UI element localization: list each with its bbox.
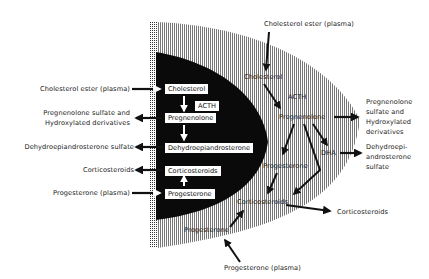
- label-left-cholesterol-ester: Cholesterol ester (plasma): [40, 85, 130, 93]
- box-corticosteroids: Corticosteroids: [165, 166, 221, 176]
- label-right-dhea-3: sulfate: [366, 163, 389, 171]
- label-right-preg-3: Hydroxylated: [366, 118, 411, 126]
- label-left-corticosteroids: Corticosteroids: [83, 166, 134, 174]
- label-left-preg-sulfate-2: Hydroxylated derivatives: [45, 119, 130, 127]
- label-outer-progesterone-lower: Progesterone: [184, 226, 229, 234]
- arrow-prog-plasma-up: [225, 240, 240, 262]
- label-right-preg-2: sulfate and: [366, 108, 404, 116]
- label-right-preg-1: Pregnenolone: [366, 98, 412, 106]
- label-right-dhea-1: Dehydroepi-: [366, 143, 408, 151]
- box-progesterone: Progesterone: [165, 189, 215, 199]
- box-cholesterol: Cholesterol: [165, 84, 208, 94]
- label-outer-progesterone-plasma: Progesterone (plasma): [224, 264, 301, 272]
- label-outer-corticosteroids: Corticosteroids: [237, 198, 288, 206]
- box-dhea: Dehydroepiandrosterone: [165, 143, 253, 153]
- label-outer-cholesterol-ester: Cholesterol ester (plasma): [264, 20, 354, 28]
- label-left-preg-sulfate-1: Pregnenolone sulfate and: [43, 109, 130, 117]
- box-pregnenolone: Pregnenolone: [165, 113, 216, 123]
- adrenal-zone-diagram: [0, 0, 429, 279]
- label-outer-dha: DHA: [321, 149, 336, 157]
- label-right-preg-4: derivatives: [366, 128, 404, 136]
- label-right-dhea-2: androsterone: [366, 153, 411, 161]
- label-outer-progesterone-upper: Progesterone: [263, 162, 308, 170]
- box-acth: ACTH: [195, 101, 219, 111]
- label-outer-cholesterol: Cholesterol: [244, 73, 282, 81]
- label-outer-acth: ACTH: [288, 93, 306, 101]
- label-left-progesterone-plasma: Progesterone (plasma): [53, 189, 130, 197]
- label-right-corticosteroids: Corticosteroids: [337, 208, 388, 216]
- label-left-dhea-sulfate: Dehydroepiandrosterone sulfate: [24, 143, 134, 151]
- label-outer-pregnenolone: Pregnenolone: [279, 113, 325, 121]
